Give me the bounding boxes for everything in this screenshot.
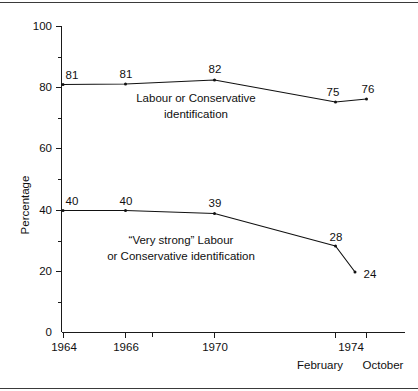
series-1-point-1970 — [213, 79, 216, 82]
series-2-point-1974oct — [354, 271, 357, 274]
x-axis-ticks — [64, 333, 367, 339]
series-1-point-1966 — [124, 83, 127, 86]
line-chart: 100 80 60 40 20 0 Percentage 1964 1966 1… — [0, 0, 418, 391]
x-tick-label-1974: 1974 — [338, 341, 364, 353]
y-tick-label-60: 60 — [39, 142, 52, 154]
y-tick-label-80: 80 — [39, 81, 52, 93]
series-1-annotation: Labour or Conservative identification — [136, 92, 256, 120]
x-axis-sub-labels: February October — [297, 359, 404, 371]
series-2-label-1964: 40 — [66, 195, 79, 207]
series-2-point-1970 — [213, 212, 216, 215]
x-sub-label-october: October — [363, 359, 404, 371]
series-1-label-1970: 82 — [209, 63, 222, 75]
y-axis-ticks — [56, 27, 62, 303]
series-2-label-1966: 40 — [120, 195, 133, 207]
series-1-point-1974oct — [365, 98, 368, 101]
y-axis-title: Percentage — [19, 176, 31, 235]
series-1-point-1964 — [62, 83, 65, 86]
chart-container: 100 80 60 40 20 0 Percentage 1964 1966 1… — [0, 0, 418, 391]
series-1-annotation-line-1: Labour or Conservative — [136, 92, 256, 104]
x-tick-label-1966: 1966 — [113, 341, 139, 353]
x-sub-label-february: February — [297, 359, 343, 371]
series-1-annotation-line-2: identification — [164, 108, 228, 120]
series-2-point-1966 — [124, 209, 127, 212]
y-tick-label-40: 40 — [39, 204, 52, 216]
series-2-annotation: “Very strong” Labour or Conservative ide… — [107, 234, 255, 262]
series-1-point-1974feb — [334, 101, 337, 104]
y-tick-label-100: 100 — [33, 20, 52, 32]
series-2-label-1974oct: 24 — [364, 268, 377, 280]
series-1-label-1974feb: 75 — [327, 86, 340, 98]
y-tick-label-0: 0 — [46, 326, 52, 338]
axes-group — [62, 26, 406, 333]
series-2-label-1974feb: 28 — [330, 231, 343, 243]
series-1-label-1966: 81 — [120, 68, 133, 80]
y-tick-label-20: 20 — [39, 265, 52, 277]
series-1-label-1964: 81 — [66, 69, 79, 81]
y-axis-tick-labels: 100 80 60 40 20 0 — [33, 20, 52, 338]
series-2-label-1970: 39 — [209, 197, 222, 209]
series-2-point-1974feb — [334, 245, 337, 248]
series-2-point-1964 — [62, 209, 65, 212]
x-tick-label-1964: 1964 — [51, 341, 77, 353]
x-tick-label-1970: 1970 — [202, 341, 228, 353]
series-2-annotation-line-1: “Very strong” Labour — [129, 234, 234, 246]
series-2-annotation-line-2: or Conservative identification — [107, 250, 255, 262]
x-axis-tick-labels: 1964 1966 1970 1974 — [51, 341, 364, 353]
series-1-label-1974oct: 76 — [362, 83, 375, 95]
